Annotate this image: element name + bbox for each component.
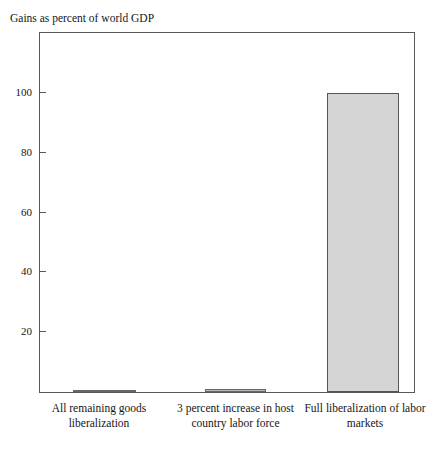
chart-title: Gains as percent of world GDP [10, 12, 154, 25]
y-tick-mark-60 [39, 212, 46, 213]
y-tick-label-100: 100 [0, 87, 32, 98]
y-tick-label-60: 60 [0, 207, 32, 218]
category-label-line: markets [291, 416, 431, 431]
plot-frame [39, 32, 415, 393]
y-tick-mark-100 [39, 92, 46, 93]
category-label-full-liberalization-of-labor-markets: Full liberalization of labor markets [291, 401, 431, 431]
category-label-line: All remaining goods [38, 401, 160, 416]
category-label-line: liberalization [38, 416, 160, 431]
category-label-line: 3 percent increase in host [163, 401, 308, 416]
bar-all-remaining-goods-liberalization[interactable] [73, 390, 136, 392]
chart-figure: Gains as percent of world GDP 20 40 60 8… [0, 0, 431, 455]
plot-area [40, 33, 414, 392]
bar-full-liberalization-of-labor-markets[interactable] [327, 93, 399, 392]
category-label-line: country labor force [163, 416, 308, 431]
category-label-3-percent-increase-host-country-labor-force: 3 percent increase in host country labor… [163, 401, 308, 431]
y-tick-mark-40 [39, 271, 46, 272]
y-tick-label-20: 20 [0, 326, 32, 337]
y-tick-mark-20 [39, 331, 46, 332]
category-label-line: Full liberalization of labor [291, 401, 431, 416]
y-tick-label-80: 80 [0, 147, 32, 158]
category-label-all-remaining-goods-liberalization: All remaining goods liberalization [38, 401, 160, 431]
bar-3-percent-increase-host-country-labor-force[interactable] [205, 389, 266, 392]
y-tick-mark-80 [39, 152, 46, 153]
y-tick-label-40: 40 [0, 266, 32, 277]
